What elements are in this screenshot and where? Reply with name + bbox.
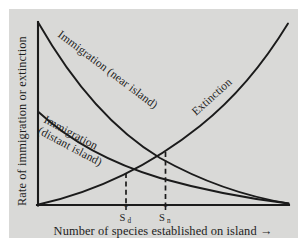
x-axis-label: Number of species established on island … [54,224,273,238]
annotations-group [126,152,166,210]
figure-container: ˆ S d ˆ S n Rate of immigration or extin… [0,0,305,252]
tick-label-sn: ˆ S n [159,204,171,225]
tick-label-sd-base: S [119,212,125,223]
curve-label-extinction: Extinction [189,76,234,119]
tick-label-sn-base: S [159,212,165,223]
tick-label-sd: ˆ S d [119,204,131,225]
tick-labels-group: ˆ S d ˆ S n [119,204,171,225]
curve-immigration-distant-island [39,112,289,204]
curve-label-immigration-near-island: Immigration (near island) [55,28,160,112]
y-axis-label: Rate of immigration or extinction [15,36,29,206]
island-biogeography-chart: ˆ S d ˆ S n Rate of immigration or extin… [0,0,305,252]
